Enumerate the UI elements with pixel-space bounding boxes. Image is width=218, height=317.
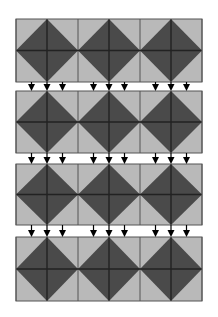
down-arrow-icon [183,84,190,91]
down-arrow-icon [90,230,97,237]
down-arrow-icon [183,230,190,237]
down-arrow-icon [44,230,51,237]
diamond-band-diagram [0,0,218,317]
down-arrow-icon [183,157,190,164]
down-arrow-icon [121,84,128,91]
down-arrow-icon [168,84,175,91]
down-arrow-icon [152,84,159,91]
down-arrow-icon [28,157,35,164]
down-arrow-icon [28,230,35,237]
down-arrow-icon [106,157,113,164]
down-arrow-icon [121,230,128,237]
down-arrow-icon [168,230,175,237]
down-arrow-icon [152,157,159,164]
down-arrow-icon [90,84,97,91]
down-arrow-icon [59,84,66,91]
down-arrow-icon [28,84,35,91]
down-arrow-icon [121,157,128,164]
down-arrow-icon [59,230,66,237]
down-arrow-icon [44,157,51,164]
down-arrow-icon [44,84,51,91]
down-arrow-icon [106,230,113,237]
down-arrow-icon [106,84,113,91]
down-arrow-icon [152,230,159,237]
down-arrow-icon [59,157,66,164]
down-arrow-icon [168,157,175,164]
down-arrow-icon [90,157,97,164]
